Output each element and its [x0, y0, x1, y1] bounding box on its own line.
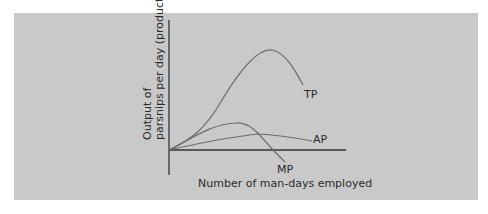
tp-label: TP: [303, 88, 318, 101]
mp-label: MP: [277, 163, 293, 176]
y-axis-label-line2: parsnips per day (product): [153, 0, 166, 140]
tp-curve: [169, 50, 303, 150]
ap-label: AP: [313, 133, 328, 146]
chart-svg: TP AP MP Number of man-days employed Out…: [0, 0, 488, 214]
mp-curve: [169, 123, 285, 162]
x-axis-label: Number of man-days employed: [198, 177, 372, 190]
ap-curve: [169, 134, 312, 150]
